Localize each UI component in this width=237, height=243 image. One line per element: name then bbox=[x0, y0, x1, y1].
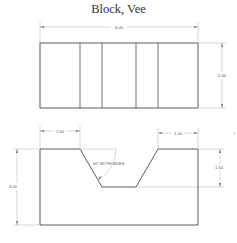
dimension-top-height: 2.40 bbox=[199, 43, 227, 108]
dimension-top-height-label: 2.40 bbox=[218, 73, 227, 78]
dimension-right-top-label: 1.00 bbox=[174, 131, 183, 136]
dimension-right-top: 1.00 bbox=[158, 128, 198, 148]
dimension-groove-depth: 1.50 bbox=[137, 149, 224, 187]
dimension-left-top: 1.00 bbox=[40, 126, 80, 148]
dimension-left-top-label: 1.00 bbox=[56, 129, 65, 134]
front-view: 1.00 1.00 3.00 bbox=[9, 126, 235, 225]
angle-annotation: 60° BOTH SIDES bbox=[80, 149, 125, 180]
dimension-overall-height-label: 3.00 bbox=[9, 184, 18, 189]
top-view-outline bbox=[40, 43, 198, 108]
dimension-groove-depth-label: 1.50 bbox=[215, 165, 224, 170]
stray-mark bbox=[234, 132, 235, 135]
technical-drawing: 6.00 2.40 1.00 bbox=[0, 0, 237, 243]
top-view: 6.00 2.40 bbox=[40, 22, 227, 108]
dimension-width: 6.00 bbox=[40, 22, 198, 42]
angle-note-label: 60° BOTH SIDES bbox=[93, 161, 125, 166]
dimension-width-label: 6.00 bbox=[115, 25, 124, 30]
dimension-overall-height: 3.00 bbox=[9, 149, 39, 225]
